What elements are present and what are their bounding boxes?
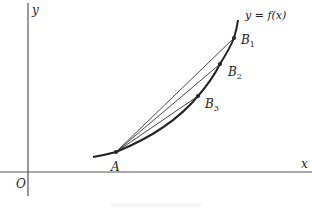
faint-caption (110, 203, 202, 207)
point-a (114, 150, 118, 154)
secant-a-b1 (116, 38, 234, 152)
point-b2-label: B2 (228, 66, 242, 81)
point-b1 (232, 36, 236, 40)
origin-label: O (16, 178, 26, 190)
point-b1-label: B1 (241, 34, 255, 49)
secant-a-b3 (116, 96, 198, 152)
y-axis-label: y (32, 4, 39, 16)
point-a-label: A (111, 161, 120, 173)
point-b2 (218, 62, 222, 66)
x-axis-label: x (301, 158, 308, 170)
diagram-canvas (0, 0, 312, 212)
curve (93, 20, 238, 157)
point-b3-label: B3 (205, 98, 219, 113)
point-b3 (196, 94, 200, 98)
curve-label: y = f(x) (245, 10, 286, 21)
